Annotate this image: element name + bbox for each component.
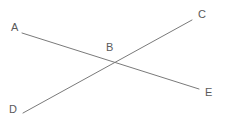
line-segment-d-c [23,20,192,113]
point-label-a: A [11,22,18,33]
point-label-e: E [205,87,212,98]
geometry-diagram: A B C D E [0,0,225,124]
point-label-b: B [106,42,113,53]
diagram-canvas [0,0,225,124]
point-label-c: C [198,9,206,20]
point-label-d: D [9,104,17,115]
